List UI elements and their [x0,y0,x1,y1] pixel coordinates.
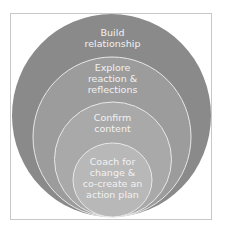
label-line: Confirm [0,112,225,123]
label-line: Explore [0,62,225,73]
label-line: Build [0,27,225,38]
label-line: Coach for [0,156,225,167]
label-line: co-create an [0,178,225,189]
label-coach-for-change: Coach for change & co-create an action p… [0,156,225,200]
label-line: reflections [0,84,225,95]
label-line: change & [0,167,225,178]
label-explore-reaction: Explore reaction & reflections [0,62,225,95]
label-line: reaction & [0,73,225,84]
label-confirm-content: Confirm content [0,112,225,134]
label-line: content [0,123,225,134]
label-build-relationship: Build relationship [0,27,225,49]
label-line: action plan [0,189,225,200]
label-line: relationship [0,38,225,49]
